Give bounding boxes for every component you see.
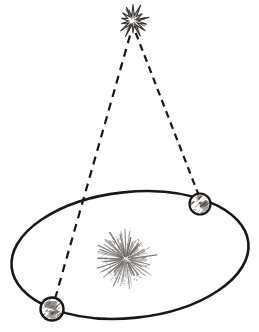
- earth-globe-right: [189, 194, 210, 216]
- stellar-parallax-diagram: [0, 0, 259, 332]
- earth-globe-left: [39, 298, 64, 321]
- diagram-canvas: [0, 0, 259, 332]
